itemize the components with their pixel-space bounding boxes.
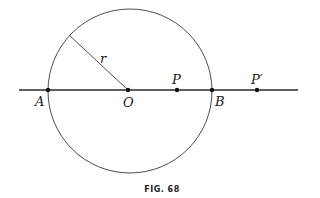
point-a [46, 88, 50, 92]
label-p: P [171, 72, 181, 87]
label-a: A [34, 94, 44, 109]
point-b [210, 88, 214, 92]
point-p [175, 88, 179, 92]
figure-68-diagram: r A O P B P′ FIG. 68 [0, 0, 320, 198]
label-o: O [123, 95, 134, 110]
radius-line [69, 35, 128, 90]
circle [48, 9, 212, 173]
point-o [126, 88, 130, 92]
point-p-prime [255, 88, 259, 92]
figure-caption: FIG. 68 [144, 185, 179, 194]
label-p-prime: P′ [250, 72, 263, 87]
label-b: B [214, 94, 225, 109]
label-r: r [100, 51, 107, 66]
